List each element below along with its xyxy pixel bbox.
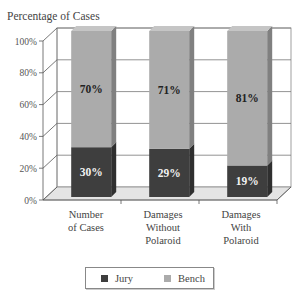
bar-side — [267, 26, 272, 165]
y-tick-label: 80% — [20, 68, 38, 78]
bar-top — [71, 26, 116, 31]
bar-side — [111, 142, 116, 197]
y-tick-label: 100% — [15, 37, 37, 47]
legend-item-jury: Jury — [101, 273, 133, 284]
legend-item-bench: Bench — [164, 273, 205, 284]
bar-side — [189, 26, 194, 149]
grid-depth-line — [43, 123, 57, 136]
bench-swatch-icon — [164, 275, 171, 282]
bar-value-label: 19% — [236, 175, 259, 187]
stacked-bar-chart: 0%20%40%60%80%100%30%70%29%71%19%81% — [0, 0, 300, 304]
x-label-0: Number of Cases — [46, 208, 126, 234]
y-tick-label: 20% — [20, 164, 38, 174]
x-label-1: Damages Without Polaroid — [123, 208, 203, 247]
bar-value-label: 29% — [158, 167, 181, 179]
bar-top — [227, 26, 272, 31]
bar-value-label: 71% — [158, 84, 181, 96]
legend: Jury Bench — [85, 267, 214, 289]
bar-value-label: 70% — [80, 83, 103, 95]
jury-swatch-icon — [101, 275, 108, 282]
grid-depth-line — [43, 28, 57, 41]
bar-side — [111, 26, 116, 147]
bar-value-label: 30% — [80, 166, 103, 178]
x-label-2: Damages With Polaroid — [201, 208, 281, 247]
bar-value-label: 81% — [236, 92, 259, 104]
y-tick-label: 0% — [24, 196, 37, 206]
y-tick-label: 40% — [20, 132, 38, 142]
bar-top — [149, 26, 194, 31]
bar-side — [189, 144, 194, 197]
grid-depth-line — [43, 60, 57, 73]
grid-depth-line — [43, 92, 57, 105]
y-tick-label: 60% — [20, 100, 38, 110]
bar-side — [267, 160, 272, 197]
grid-depth-line — [43, 155, 57, 168]
